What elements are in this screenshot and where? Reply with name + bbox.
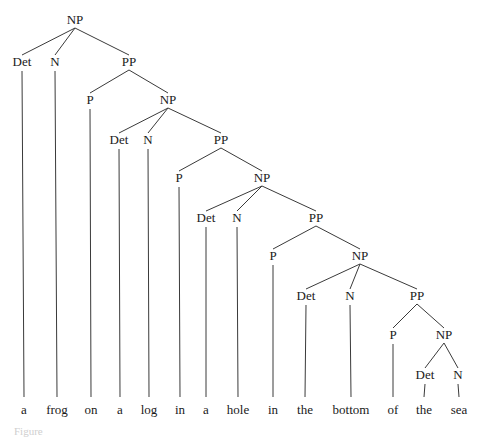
tree-edge [316, 226, 360, 249]
node-np: NP [160, 92, 177, 107]
node-p: P [86, 92, 93, 107]
node-det: Det [297, 288, 316, 303]
tree-edge [129, 70, 168, 93]
tree-edge [148, 108, 168, 133]
node-np: NP [352, 248, 369, 263]
leaf-edge [22, 71, 24, 397]
word: on [85, 402, 99, 417]
tree-edge [119, 108, 168, 133]
node-pp: PP [410, 288, 424, 303]
word: bottom [333, 402, 370, 417]
node-pp: PP [122, 54, 136, 69]
figure-caption: Figure [14, 425, 43, 437]
leaf-edge [90, 109, 91, 397]
tree-edge [393, 304, 417, 328]
leaf-edge [424, 384, 425, 397]
tree-edge [273, 226, 316, 249]
tree-edge [206, 186, 262, 211]
tree-edge [360, 264, 417, 289]
tree-edge [168, 108, 221, 133]
leaf-edge [119, 149, 120, 397]
node-p: P [389, 327, 396, 342]
word: in [268, 402, 279, 417]
leaf-edge [350, 305, 351, 397]
word: in [175, 402, 186, 417]
tree-edge [75, 28, 129, 55]
tree-edge [417, 304, 444, 328]
leaf-edge [55, 71, 57, 397]
sentence-words: afrogonaloginaholeinthebottomofthesea [21, 402, 467, 417]
node-det: Det [416, 367, 435, 382]
leaf-edge [148, 149, 149, 397]
tree-edge [22, 28, 75, 55]
node-np: NP [67, 12, 84, 27]
node-n: N [143, 132, 153, 147]
node-n: N [345, 288, 355, 303]
node-pp: PP [309, 210, 323, 225]
node-np: NP [254, 170, 271, 185]
node-det: Det [13, 54, 32, 69]
leaf-edge [305, 305, 306, 397]
word: sea [451, 402, 468, 417]
tree-edge [262, 186, 316, 211]
word: the [416, 402, 432, 417]
word: hole [227, 402, 250, 417]
node-det: Det [110, 132, 129, 147]
node-p: P [269, 248, 276, 263]
node-pp: PP [214, 132, 228, 147]
leaf-edge [458, 384, 459, 397]
word: the [297, 402, 313, 417]
leaf-edge [179, 187, 180, 397]
node-p: P [175, 170, 182, 185]
word: a [203, 402, 209, 417]
node-det: Det [197, 210, 216, 225]
word: frog [46, 402, 68, 417]
word: of [388, 402, 400, 417]
leaf-edge [237, 227, 238, 397]
tree-edge [90, 70, 129, 93]
word: a [21, 402, 27, 417]
node-np: NP [436, 327, 453, 342]
tree-edge [425, 343, 444, 368]
node-n: N [232, 210, 242, 225]
tree-edge [221, 148, 262, 171]
tree-edge [444, 343, 458, 368]
word: log [141, 402, 158, 417]
node-n: N [50, 54, 60, 69]
word: a [117, 402, 123, 417]
node-n: N [453, 367, 463, 382]
tree-edge [55, 28, 75, 55]
tree-edge [179, 148, 221, 171]
tree-edge [237, 186, 262, 211]
